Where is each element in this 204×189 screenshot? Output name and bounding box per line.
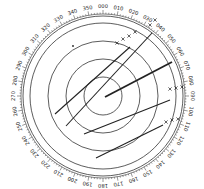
bearing-tick (45, 155, 46, 156)
bearing-label-020: 020 (128, 7, 139, 16)
bearing-tick (146, 25, 147, 26)
bearing-label-120: 120 (176, 135, 186, 147)
bearing-ring-inner (23, 16, 183, 176)
track-line-3 (84, 100, 170, 134)
range-ring-4 (30, 23, 176, 169)
bearing-tick (162, 38, 163, 39)
bearing-tick (29, 53, 32, 55)
bearing-label-240: 240 (20, 135, 30, 147)
bearing-tick (134, 172, 135, 173)
bearing-tick (184, 110, 188, 111)
bearing-tick (69, 20, 70, 21)
bearing-tick (178, 129, 179, 130)
bearing-tick (173, 139, 174, 140)
bearing-tick (162, 153, 163, 154)
range-rings (30, 23, 176, 169)
bearing-tick (69, 171, 70, 172)
bearing-tick (179, 65, 180, 66)
bearing-tick (164, 40, 165, 41)
bearing-label-110: 110 (183, 121, 192, 132)
bearing-tick (48, 159, 51, 162)
bearing-tick (179, 127, 180, 128)
bearing-tick (139, 170, 140, 171)
bearing-tick (180, 67, 184, 68)
bearing-tick (37, 146, 38, 147)
bearing-tick (43, 153, 44, 154)
bearing-tick (22, 124, 26, 125)
bearing-tick (160, 36, 161, 37)
bearing-label-130: 130 (166, 148, 177, 159)
x-marker-icon (121, 37, 124, 40)
bearing-tick (160, 155, 161, 156)
bearing-tick (156, 30, 159, 33)
bearing-tick (153, 161, 154, 162)
bearing-tick (151, 162, 152, 163)
plot-markers (72, 18, 184, 123)
bearing-tick (32, 52, 33, 53)
bearing-tick (18, 81, 22, 82)
bearing-label-150: 150 (142, 169, 154, 179)
bearing-tick (158, 34, 159, 35)
bearing-tick (27, 62, 28, 63)
bearing-tick (149, 27, 150, 28)
bearing-tick (184, 81, 188, 82)
bearing-tick (37, 149, 40, 152)
radar-plot: 0000100200300400500600700800901001101201… (0, 0, 204, 189)
bearing-tick (18, 110, 22, 111)
bearing-label-000: 000 (98, 3, 108, 9)
bearing-tick (131, 15, 132, 19)
bearing-tick (66, 170, 67, 171)
bearing-tick (178, 62, 179, 63)
bearing-label-300: 300 (20, 45, 30, 57)
bearing-label-340: 340 (67, 7, 78, 16)
bearing-tick (34, 142, 35, 143)
bearing-tick (22, 67, 26, 68)
bearing-label-280: 280 (11, 75, 19, 86)
bearing-label-010: 010 (113, 4, 124, 12)
bearing-tick (144, 167, 146, 170)
bearing-label-310: 310 (29, 33, 40, 44)
bearing-tick (34, 49, 35, 50)
bearing-tick (66, 21, 67, 22)
bearing-tick (60, 167, 62, 170)
bearing-tick (28, 59, 29, 60)
bearing-tick (60, 22, 62, 25)
bearing-tick (173, 52, 174, 53)
own-ship-vector (105, 62, 172, 97)
bearing-tick (168, 146, 169, 147)
bearing-label-220: 220 (40, 159, 51, 170)
bearing-label-070: 070 (183, 60, 192, 71)
bearing-label-260: 260 (11, 106, 19, 117)
bearing-tick (144, 22, 146, 25)
bearing-tick (177, 132, 178, 133)
bearing-tick (164, 151, 165, 152)
bearing-tick (37, 41, 40, 44)
bearing-tick (177, 59, 178, 60)
bearing-labels: 0000100200300400500600700800901001101201… (10, 3, 195, 188)
bearing-tick (156, 159, 159, 162)
x-marker-icon (164, 120, 167, 123)
bearing-label-350: 350 (82, 4, 93, 12)
range-ring-3 (48, 41, 158, 151)
bearing-label-160: 160 (128, 176, 139, 185)
bearing-tick (56, 164, 57, 165)
bearing-label-030: 030 (142, 13, 154, 23)
bearing-label-230: 230 (29, 148, 40, 159)
bearing-tick (141, 168, 142, 169)
bearing-label-090: 090 (190, 91, 196, 101)
bearing-tick (131, 173, 132, 177)
bearing-tick (56, 27, 57, 28)
bearing-tick (74, 15, 75, 19)
bearing-tick (54, 162, 55, 163)
bearing-tick (136, 20, 137, 21)
bearing-tick (149, 164, 150, 165)
bearing-tick (29, 134, 30, 135)
bearing-label-200: 200 (67, 176, 78, 185)
bearing-label-210: 210 (52, 169, 64, 179)
bearing-tick (27, 129, 28, 130)
bearing-tick (139, 21, 140, 22)
bearing-tick (35, 144, 36, 145)
bearing-label-190: 190 (82, 180, 93, 188)
bearing-ring-outer (21, 14, 185, 178)
bearing-tick (169, 144, 170, 145)
